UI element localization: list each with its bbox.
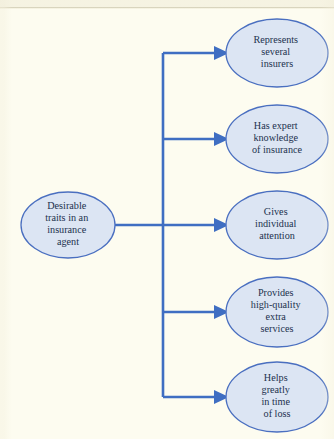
node-root: Desirable traits in an insurance agent bbox=[21, 192, 115, 258]
node-branch-2-label: Has expert knowledge of insurance bbox=[252, 120, 303, 155]
node-branch-1: Represents several insurers bbox=[226, 19, 328, 87]
flow-diagram: Desirable traits in an insurance agent R… bbox=[0, 0, 334, 439]
connector-group bbox=[115, 53, 216, 397]
node-branch-2: Has expert knowledge of insurance bbox=[226, 105, 328, 173]
node-branch-5: Helps greatly in time of loss bbox=[226, 362, 328, 432]
node-branch-4: Provides high-quality extra services bbox=[226, 277, 328, 347]
figure-diagram-container: Desirable traits in an insurance agent R… bbox=[0, 0, 334, 439]
node-branch-5-label: Helps greatly in time of loss bbox=[261, 372, 292, 419]
node-branch-3: Gives individual attention bbox=[226, 191, 328, 259]
